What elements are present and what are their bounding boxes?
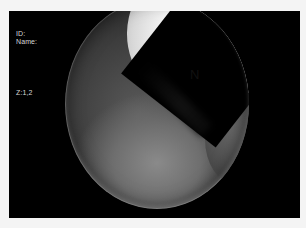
dark-wedge (121, 11, 249, 147)
endoscopic-image-frame: ID: Name: Z:1,2 N (9, 11, 300, 218)
zoom-level-label: Z:1,2 (16, 89, 32, 97)
tissue-region (205, 94, 249, 184)
patient-name-label: Name: (16, 38, 37, 46)
structure-annotation-n: N (190, 67, 199, 82)
shadow-fold (137, 61, 212, 136)
endoscope-field-of-view (65, 11, 249, 209)
patient-id-label: ID: (16, 30, 25, 38)
